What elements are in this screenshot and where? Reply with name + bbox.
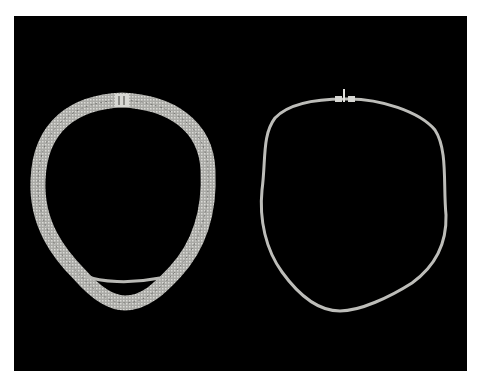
toggle-clasp <box>335 96 342 102</box>
box-clasp <box>115 94 129 107</box>
single-strand-necklace <box>261 89 446 311</box>
multi-strand-necklace <box>38 94 208 303</box>
necklaces-illustration <box>0 0 480 386</box>
